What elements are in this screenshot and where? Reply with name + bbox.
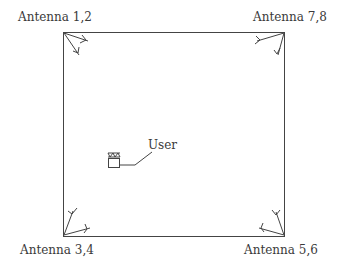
antenna-icon-bottom-right — [259, 210, 284, 235]
room-boundary — [64, 33, 285, 237]
user-leader-line — [120, 152, 152, 165]
antenna-icon-bottom-left — [64, 208, 90, 235]
antenna-icon-top-left — [64, 33, 88, 55]
user-device-icon — [108, 153, 120, 168]
room-diagram — [0, 0, 343, 276]
antenna-icon-top-right — [255, 33, 284, 55]
